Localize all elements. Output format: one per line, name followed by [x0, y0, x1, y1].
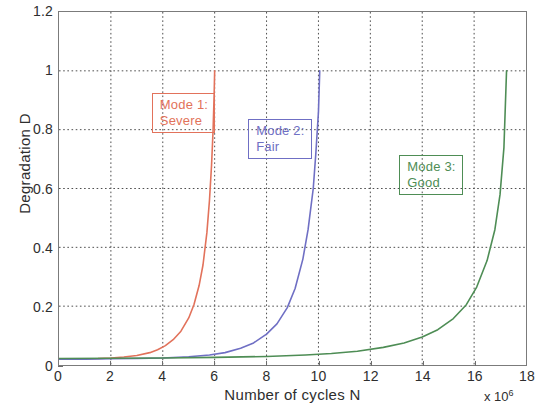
- x-tick-mark: [423, 361, 424, 366]
- x-tick-label: 10: [299, 369, 339, 384]
- x-tick-label: 16: [455, 369, 495, 384]
- x-axis-multiplier-exponent: 6: [509, 388, 514, 398]
- x-tick-mark: [214, 361, 215, 366]
- y-tick-label: 0.6: [7, 182, 53, 196]
- x-axis-title: Number of cycles N: [58, 386, 527, 403]
- annotation-mode2: Mode 2:Fair: [248, 119, 311, 159]
- x-tick-label: 8: [246, 369, 286, 384]
- annotation-mode1: Mode 1:Severe: [152, 93, 215, 133]
- x-axis-multiplier: x 106: [484, 388, 514, 404]
- annotation-line-2: Severe: [160, 113, 208, 129]
- x-tick-label: 12: [351, 369, 391, 384]
- y-tick-label: 0.4: [7, 241, 53, 255]
- x-tick-mark: [319, 361, 320, 366]
- y-tick-mark: [58, 366, 63, 367]
- x-tick-label: 14: [403, 369, 443, 384]
- annotation-line-1: Mode 2:: [256, 123, 304, 139]
- x-tick-mark: [371, 361, 372, 366]
- y-tick-label: 0.8: [7, 122, 53, 136]
- data-series-group: [59, 71, 507, 359]
- figure-canvas: Degradation D 00.20.40.60.811.2 02468101…: [0, 0, 548, 411]
- annotation-line-1: Mode 1:: [160, 97, 208, 113]
- x-tick-label: 6: [194, 369, 234, 384]
- x-tick-label: 4: [142, 369, 182, 384]
- y-tick-label: 1: [7, 63, 53, 77]
- x-tick-mark: [266, 361, 267, 366]
- x-tick-label: 0: [38, 369, 78, 384]
- x-tick-mark: [110, 361, 111, 366]
- x-tick-label: 18: [507, 369, 547, 384]
- annotation-line-1: Mode 3:: [407, 159, 455, 175]
- x-tick-mark: [475, 361, 476, 366]
- x-axis-multiplier-base: x 10: [484, 389, 509, 404]
- annotation-mode3: Mode 3:Good: [399, 155, 462, 195]
- annotation-line-2: Fair: [256, 139, 304, 155]
- x-tick-mark: [162, 361, 163, 366]
- annotation-line-2: Good: [407, 175, 455, 191]
- y-tick-label: 1.2: [7, 4, 53, 18]
- x-tick-label: 2: [90, 369, 130, 384]
- y-tick-label: 0.2: [7, 300, 53, 314]
